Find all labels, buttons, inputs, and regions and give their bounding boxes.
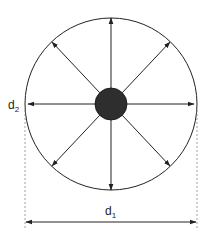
d1-label: d1 [105,204,117,220]
arrow-down-right [122,115,170,166]
arrow-up-left [52,42,100,93]
d2-label: d2 [8,98,20,114]
central-core [95,88,127,120]
arrow-up-right [122,42,170,93]
arrow-down-left [52,115,100,166]
radial-expansion-diagram: d2 d1 [0,0,209,241]
